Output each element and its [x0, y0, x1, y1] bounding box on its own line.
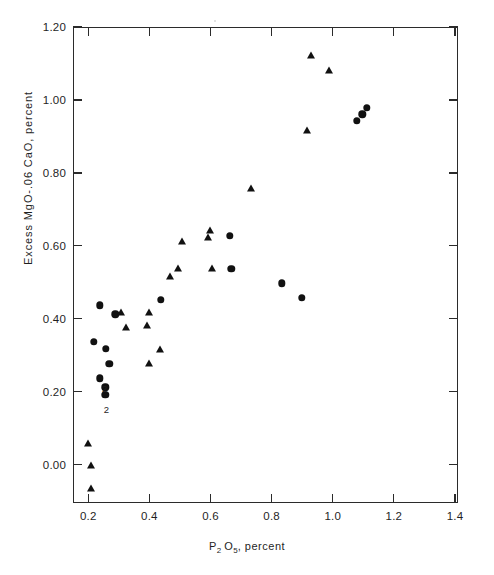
plot-frame: 22 [73, 27, 458, 503]
data-point-triangle [174, 265, 182, 272]
x-tick-top [149, 27, 150, 36]
data-point-triangle [325, 66, 333, 73]
data-point-triangle [145, 309, 153, 316]
x-axis-title-o: O [224, 540, 233, 552]
y-axis-title: Excess MgO-.06 CaO, percent [22, 91, 34, 265]
x-tick-label: 0.4 [141, 510, 158, 522]
data-point-circle [226, 232, 233, 239]
data-point-circle [102, 345, 109, 352]
x-axis-title-tail: , percent [238, 540, 285, 552]
y-tick-label: 0.60 [43, 240, 66, 252]
data-point-triangle [145, 360, 153, 367]
x-tick-label: 0.2 [80, 510, 97, 522]
data-point-triangle [84, 440, 92, 447]
x-tick-bottom [88, 494, 89, 503]
y-tick-left [73, 26, 82, 27]
y-tick-left [73, 464, 82, 465]
data-point-triangle [208, 265, 216, 272]
x-tick-bottom [149, 494, 150, 503]
data-point-circle [278, 280, 285, 287]
x-tick-bottom [393, 494, 394, 503]
x-tick-top [210, 27, 211, 36]
data-point-triangle [303, 126, 311, 133]
x-tick-top [88, 27, 89, 36]
x-tick-top [271, 27, 272, 36]
data-point-triangle [166, 272, 174, 279]
y-tick-label: 1.20 [43, 21, 66, 33]
y-tick-label: 0.00 [43, 459, 66, 471]
x-tick-label: 0.6 [202, 510, 219, 522]
data-point-triangle [178, 237, 186, 244]
y-tick-right [449, 391, 458, 392]
data-point-circle [157, 296, 164, 303]
y-tick-label: 0.80 [43, 167, 66, 179]
x-tick-bottom [210, 494, 211, 503]
y-tick-left [73, 391, 82, 392]
data-layer: 22 [74, 28, 457, 502]
x-tick-label: 1.0 [324, 510, 341, 522]
data-point-triangle [247, 185, 255, 192]
y-tick-right [449, 172, 458, 173]
scan-speck [214, 20, 216, 22]
data-point-triangle [307, 51, 315, 58]
data-point-circle [363, 104, 370, 111]
x-axis-title: P2O5, percent [0, 540, 494, 555]
y-tick-left [73, 245, 82, 246]
x-tick-top [332, 27, 333, 36]
data-point-circle [96, 374, 103, 381]
data-point-circle [228, 265, 235, 272]
point-count-annotation: 2 [104, 404, 109, 415]
y-tick-left [73, 99, 82, 100]
data-point-circle [298, 294, 305, 301]
x-tick-label: 1.4 [447, 510, 464, 522]
y-tick-right [449, 464, 458, 465]
x-tick-top [393, 27, 394, 36]
data-point-circle [90, 338, 97, 345]
y-tick-label: 0.40 [43, 313, 66, 325]
data-point-circle [96, 302, 103, 309]
y-tick-right [449, 318, 458, 319]
y-tick-label: 0.20 [43, 386, 66, 398]
x-axis-title-p: P [209, 540, 217, 552]
x-tick-label: 1.2 [386, 510, 403, 522]
x-tick-top [454, 27, 455, 36]
x-tick-bottom [332, 494, 333, 503]
x-axis-title-sub-2: 2 [217, 546, 221, 555]
data-point-triangle [87, 462, 95, 469]
x-tick-bottom [271, 494, 272, 503]
y-tick-right [449, 99, 458, 100]
data-point-triangle [117, 309, 125, 316]
data-point-triangle [122, 323, 130, 330]
y-tick-label: 1.00 [43, 94, 66, 106]
data-point-circle [353, 117, 360, 124]
scatter-plot-figure: 22 1.201.000.800.600.400.200.000.20.40.6… [0, 0, 494, 575]
data-point-triangle [87, 484, 95, 491]
data-point-triangle [143, 321, 151, 328]
data-point-triangle [156, 345, 164, 352]
data-point-circle [358, 111, 365, 118]
x-tick-label: 0.8 [263, 510, 280, 522]
y-tick-right [449, 245, 458, 246]
data-point-triangle [206, 227, 214, 234]
y-tick-left [73, 172, 82, 173]
y-tick-left [73, 318, 82, 319]
data-point-triangle [204, 234, 212, 241]
x-tick-bottom [454, 494, 455, 503]
data-point-circle [105, 360, 112, 367]
point-count-annotation: 2 [102, 383, 107, 394]
